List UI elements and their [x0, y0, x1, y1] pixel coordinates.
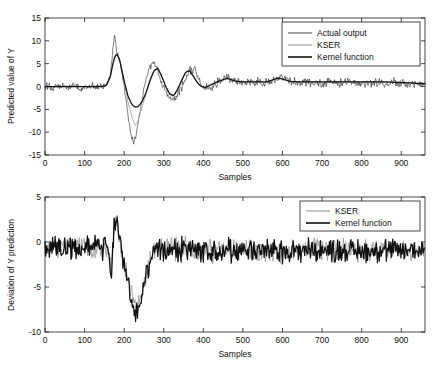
y-tick-label: 0: [36, 237, 41, 247]
x-tick-label: 500: [236, 335, 250, 345]
bottom-legend-label-kser: KSER: [335, 206, 358, 216]
x-tick-label: 900: [394, 158, 408, 168]
x-tick-label: 0: [43, 158, 48, 168]
x-tick-label: 400: [196, 335, 210, 345]
y-tick-label: -5: [33, 104, 41, 114]
x-tick-label: 100: [77, 335, 91, 345]
y-tick-label: -5: [33, 282, 41, 292]
x-tick-label: 0: [43, 335, 48, 345]
bottom-y-axis-title: Deviation of Y prediction: [6, 219, 16, 311]
x-tick-label: 600: [275, 158, 289, 168]
top-x-axis-title: Samples: [218, 172, 251, 182]
bottom-legend: KSER Kernel function: [300, 201, 420, 231]
bottom-plot-area: -10-505 0100200300400500600700800900 KSE…: [6, 192, 425, 359]
y-tick-label: -15: [29, 150, 42, 160]
top-legend: Actual output KSER Kernel function: [282, 22, 420, 66]
top-legend-label-kernel-function: Kernel function: [317, 52, 374, 62]
bottom-legend-label-kernel-function: Kernel function: [335, 218, 392, 228]
chart-panel-top: -15-10-5051015 0100200300400500600700800…: [0, 0, 437, 185]
y-tick-label: 10: [32, 36, 42, 46]
x-tick-label: 400: [196, 158, 210, 168]
x-tick-label: 100: [77, 158, 91, 168]
y-tick-label: 15: [32, 13, 42, 23]
x-tick-label: 200: [117, 335, 131, 345]
x-tick-label: 800: [355, 335, 369, 345]
x-tick-label: 900: [394, 335, 408, 345]
x-tick-label: 800: [355, 158, 369, 168]
figure-container: -15-10-5051015 0100200300400500600700800…: [0, 0, 437, 370]
top-chart-svg: -15-10-5051015 0100200300400500600700800…: [0, 0, 437, 185]
x-tick-label: 200: [117, 158, 131, 168]
y-tick-label: -10: [29, 127, 42, 137]
bottom-chart-svg: -10-505 0100200300400500600700800900 KSE…: [0, 185, 437, 370]
y-tick-label: 0: [36, 82, 41, 92]
top-y-axis-title: Predicted value of Y: [6, 48, 16, 124]
y-tick-label: 5: [36, 192, 41, 202]
y-tick-label: -10: [29, 327, 42, 337]
x-tick-label: 300: [157, 335, 171, 345]
x-tick-label: 700: [315, 158, 329, 168]
top-plot-area: -15-10-5051015 0100200300400500600700800…: [6, 13, 425, 182]
x-tick-label: 300: [157, 158, 171, 168]
x-tick-label: 700: [315, 335, 329, 345]
chart-panel-bottom: -10-505 0100200300400500600700800900 KSE…: [0, 185, 437, 370]
x-tick-label: 500: [236, 158, 250, 168]
top-legend-label-actual-output: Actual output: [317, 28, 367, 38]
top-legend-label-kser: KSER: [317, 40, 340, 50]
x-tick-label: 600: [275, 335, 289, 345]
bottom-x-axis-title: Samples: [218, 349, 251, 359]
y-tick-label: 5: [36, 59, 41, 69]
